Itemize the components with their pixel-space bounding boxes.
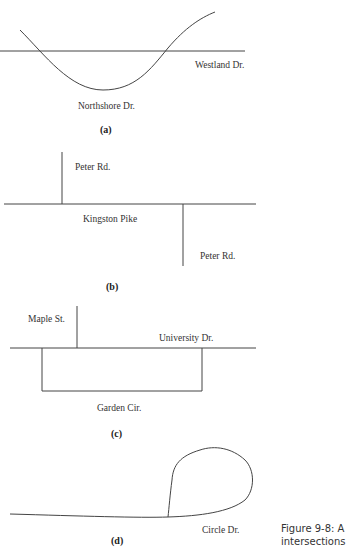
figure-caption-line-1: Figure 9-8: A: [281, 522, 346, 535]
circle-dr-loop: [10, 448, 253, 518]
street-label-peter-rd-north: Peter Rd.: [75, 162, 110, 172]
panel-label-c: (c): [111, 428, 122, 439]
street-label-westland-dr: Westland Dr.: [195, 60, 244, 70]
panel-label-d: (d): [111, 535, 123, 546]
panel-label-a: (a): [100, 124, 112, 135]
street-label-kingston-pike: Kingston Pike: [83, 214, 137, 224]
panel-d-drawing: [10, 448, 253, 518]
street-label-northshore-dr: Northshore Dr.: [78, 101, 135, 111]
panel-a-drawing: [0, 12, 245, 90]
street-label-maple-st: Maple St.: [28, 314, 65, 324]
street-label-peter-rd-south: Peter Rd.: [200, 251, 235, 261]
panel-b-drawing: [4, 152, 256, 266]
panel-label-b: (b): [106, 281, 118, 292]
figure-caption: Figure 9-8: A intersections: [281, 522, 346, 548]
street-label-circle-dr: Circle Dr.: [202, 525, 239, 535]
street-label-university-dr: University Dr.: [159, 333, 213, 343]
garden-cir-loop: [42, 348, 202, 391]
street-label-garden-cir: Garden Cir.: [97, 403, 141, 413]
figure-caption-line-2: intersections: [281, 535, 346, 548]
